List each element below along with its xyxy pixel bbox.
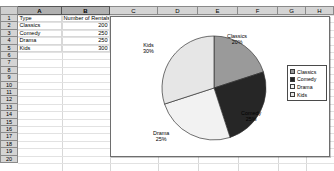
row-header-11[interactable]: 11 (0, 89, 18, 96)
pie-label-kids: Kids 30% (143, 42, 154, 54)
row-header-19[interactable]: 19 (0, 148, 18, 155)
legend-label: Drama (297, 84, 313, 90)
legend-label: Kids (297, 92, 307, 98)
legend-item-classics[interactable]: Classics (290, 68, 324, 76)
pie-label-kids-percent: 30% (143, 48, 154, 54)
pie-plot-area (159, 33, 269, 143)
pie-label-comedy-percent: 25% (241, 116, 261, 122)
row-header-9[interactable]: 9 (0, 74, 18, 81)
row-header-15[interactable]: 15 (0, 119, 18, 126)
row-header-8[interactable]: 8 (0, 67, 18, 74)
pie-label-drama-percent: 25% (153, 136, 169, 142)
cell-a4[interactable]: Drama (18, 37, 62, 44)
row-header-6[interactable]: 6 (0, 52, 18, 59)
pie-svg (159, 33, 269, 143)
column-header-h[interactable]: H (306, 6, 334, 15)
row-header-2[interactable]: 2 (0, 22, 18, 29)
cell-b3[interactable]: 250 (62, 30, 110, 37)
cell-b4[interactable]: 250 (62, 37, 110, 44)
row-header-17[interactable]: 17 (0, 133, 18, 140)
row-header-7[interactable]: 7 (0, 59, 18, 66)
row-header-18[interactable]: 18 (0, 141, 18, 148)
row-header-4[interactable]: 4 (0, 37, 18, 44)
cell-a2[interactable]: Classics (18, 22, 62, 29)
cell-a3[interactable]: Comedy (18, 30, 62, 37)
legend-item-kids[interactable]: Kids (290, 91, 324, 99)
legend-swatch-icon (290, 92, 295, 97)
row-header-3[interactable]: 3 (0, 30, 18, 37)
row-gridline (18, 163, 334, 164)
pie-label-comedy: Comedy 25% (241, 110, 261, 122)
row-header-13[interactable]: 13 (0, 104, 18, 111)
pie-label-classics: Classics 20% (227, 33, 247, 45)
legend-swatch-icon (290, 77, 295, 82)
legend-item-comedy[interactable]: Comedy (290, 76, 324, 84)
row-header-12[interactable]: 12 (0, 96, 18, 103)
row-header-5[interactable]: 5 (0, 45, 18, 52)
cell-b1[interactable]: Number of Rentals (62, 15, 110, 22)
legend-swatch-icon (290, 84, 295, 89)
pie-label-drama: Drama 25% (153, 130, 169, 142)
row-header-10[interactable]: 10 (0, 82, 18, 89)
column-header-g[interactable]: G (278, 6, 306, 15)
cell-b5[interactable]: 300 (62, 45, 110, 52)
legend-label: Comedy (297, 76, 316, 82)
legend-item-drama[interactable]: Drama (290, 83, 324, 91)
column-header-c[interactable]: C (110, 6, 158, 15)
legend-swatch-icon (290, 69, 295, 74)
column-header-f[interactable]: F (238, 6, 278, 15)
pie-label-classics-percent: 20% (227, 39, 247, 45)
row-header-16[interactable]: 16 (0, 126, 18, 133)
cell-a1[interactable]: Type (18, 15, 62, 22)
column-header-b[interactable]: B (62, 6, 110, 15)
chart-legend[interactable]: ClassicsComedyDramaKids (287, 65, 327, 101)
column-header-d[interactable]: D (158, 6, 198, 15)
row-header-20[interactable]: 20 (0, 156, 18, 163)
pie-slices[interactable] (162, 36, 266, 140)
column-header-a[interactable]: A (18, 6, 62, 15)
pie-chart-object[interactable]: Classics 20% Comedy 25% Drama 25% Kids 3… (110, 16, 330, 157)
row-header-1[interactable]: 1 (0, 15, 18, 22)
column-header-e[interactable]: E (198, 6, 238, 15)
row-header-14[interactable]: 14 (0, 111, 18, 118)
select-all-corner[interactable] (0, 6, 18, 15)
spreadsheet-window: ABCDEFGH 1234567891011121314151617181920… (0, 0, 334, 171)
cell-a5[interactable]: Kids (18, 45, 62, 52)
legend-label: Classics (297, 69, 316, 75)
cell-b2[interactable]: 200 (62, 22, 110, 29)
